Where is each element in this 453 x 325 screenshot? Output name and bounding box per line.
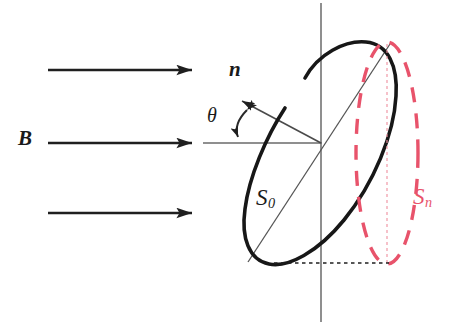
- label-projected-area-sn: Sn: [413, 185, 432, 209]
- label-projected-area-sn-base: S: [413, 184, 425, 209]
- label-loop-area-s0-base: S: [256, 185, 268, 210]
- label-projected-area-sn-subscript: n: [425, 194, 433, 210]
- label-normal-vector-n: n: [229, 59, 241, 80]
- loop-outline-tilted: [244, 42, 396, 265]
- s0-diagonal-line: [248, 44, 390, 262]
- diagram-canvas: [0, 0, 453, 325]
- normal-vector: [242, 101, 321, 143]
- label-angle-theta: θ: [207, 105, 217, 125]
- label-magnetic-field-B: B: [18, 128, 32, 149]
- label-loop-area-s0: S0: [256, 186, 275, 210]
- label-loop-area-s0-subscript: 0: [268, 195, 276, 211]
- flux-diagram: B n θ S0 Sn: [0, 0, 453, 325]
- angle-arc-theta: [237, 110, 247, 137]
